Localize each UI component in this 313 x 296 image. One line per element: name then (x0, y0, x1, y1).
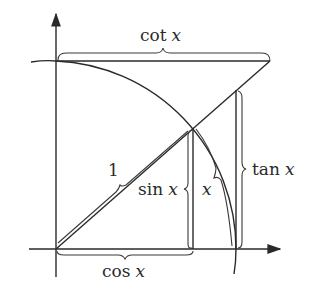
cot-label: cotx (140, 25, 182, 45)
cos-label: cosx (102, 261, 145, 281)
sin-brace (184, 130, 192, 248)
tan-brace (238, 91, 246, 248)
arc-x-label: x (202, 179, 212, 199)
sin-label: sinx (138, 179, 178, 199)
cos-brace (57, 251, 193, 259)
unit-circle-arc (31, 61, 236, 274)
trig-unit-circle-diagram: cotx 1 sinx x tanx cosx (0, 0, 313, 296)
radius-line (56, 61, 270, 249)
one-label: 1 (108, 160, 119, 180)
tan-label: tanx (252, 159, 295, 179)
cot-brace (58, 48, 270, 61)
